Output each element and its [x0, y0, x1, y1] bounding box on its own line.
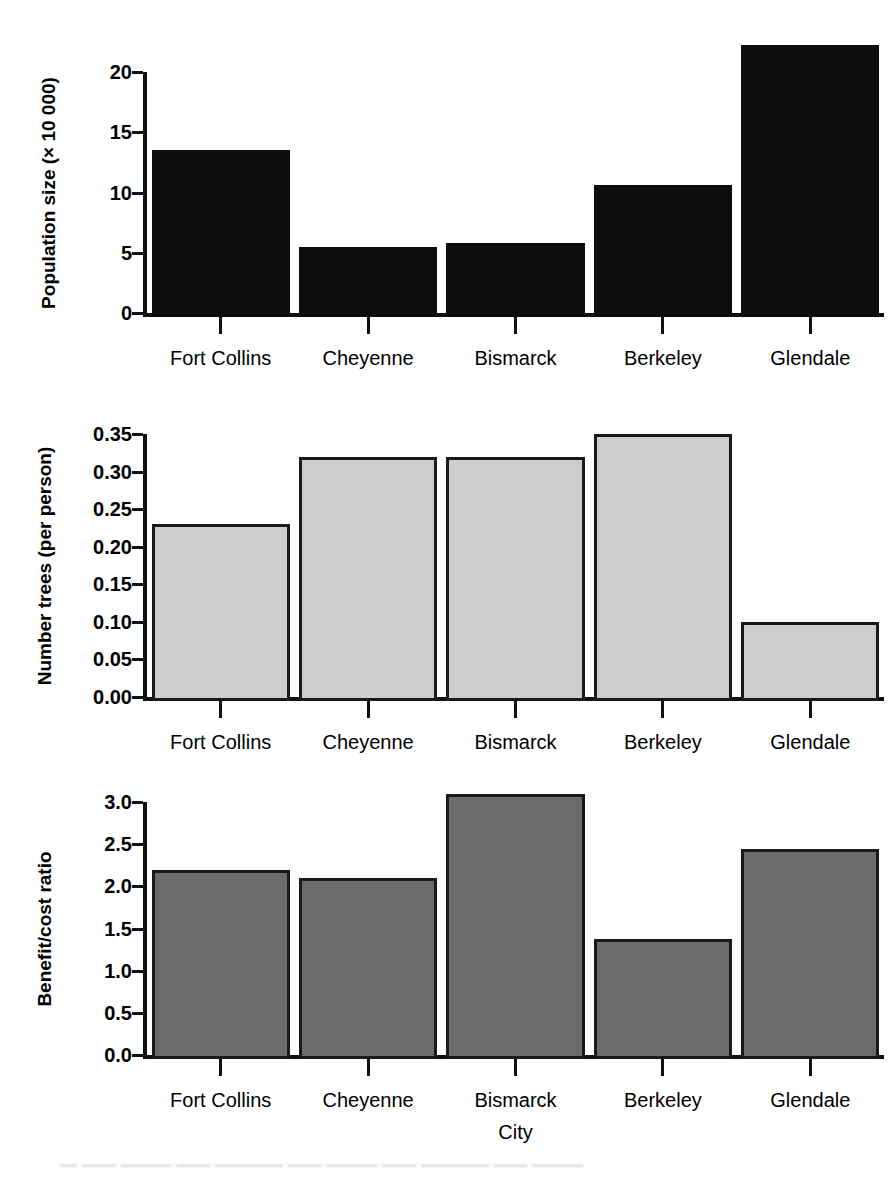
- x-tick-label: Cheyenne: [323, 1089, 414, 1112]
- x-tick-label: Berkeley: [624, 1089, 702, 1112]
- y-tick-label: 3.0: [104, 792, 132, 812]
- x-axis-title: City: [498, 1121, 532, 1144]
- y-tick-label: 1.0: [104, 961, 132, 981]
- bar: [594, 939, 732, 1059]
- y-tick-mark: [132, 1012, 143, 1015]
- x-tick-label: Glendale: [770, 1089, 850, 1112]
- y-axis-spine: [143, 802, 147, 1058]
- y-tick-label: 2.5: [104, 834, 132, 854]
- bar: [299, 878, 437, 1059]
- bar: [152, 870, 290, 1059]
- chart-panel-benefit-cost: Benefit/cost ratio0.00.51.01.52.02.53.0F…: [0, 0, 892, 1179]
- figure-root: Population size (× 10 000)05101520Fort C…: [0, 0, 892, 1179]
- y-tick-labels: 0.00.51.01.52.02.53.0: [60, 0, 132, 1179]
- y-axis-label: Benefit/cost ratio: [34, 743, 56, 1116]
- y-tick-mark: [132, 928, 143, 931]
- x-tick-mark: [661, 1059, 664, 1076]
- scan-artifact: — —— ——— —— ———— —— ——— —— ———— —— ———: [0, 1153, 892, 1179]
- scan-artifact-text: — —— ——— —— ———— —— ——— —— ———— —— ———: [60, 1155, 583, 1175]
- x-tick-mark: [809, 1059, 812, 1076]
- x-tick-mark: [514, 1059, 517, 1076]
- x-tick-mark: [367, 1059, 370, 1076]
- y-tick-mark: [132, 801, 143, 804]
- bar: [741, 849, 879, 1059]
- y-tick-label: 2.0: [104, 876, 132, 896]
- x-tick-label: Bismarck: [474, 1089, 556, 1112]
- y-tick-mark: [132, 843, 143, 846]
- y-tick-label: 0.0: [104, 1045, 132, 1065]
- y-tick-mark: [132, 970, 143, 973]
- y-tick-mark: [132, 885, 143, 888]
- bar: [446, 794, 584, 1059]
- y-tick-label: 1.5: [104, 919, 132, 939]
- y-tick-mark: [132, 1054, 143, 1057]
- x-tick-mark: [219, 1059, 222, 1076]
- y-tick-label: 0.5: [104, 1003, 132, 1023]
- x-tick-label: Fort Collins: [170, 1089, 271, 1112]
